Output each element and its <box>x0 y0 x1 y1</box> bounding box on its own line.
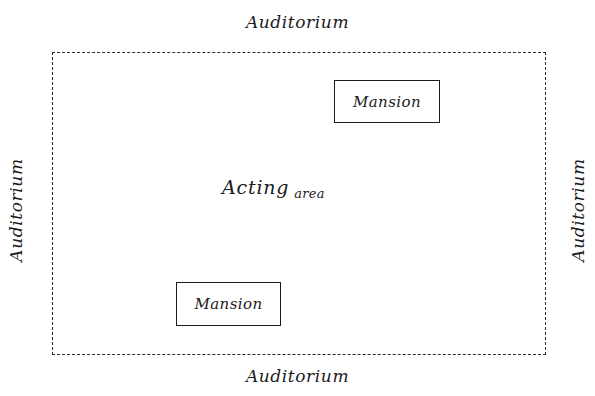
mansion-label-lower-left: Mansion <box>177 295 280 313</box>
mansion-label-upper-right: Mansion <box>335 92 439 110</box>
auditorium-label-top: Auditorium <box>0 12 595 32</box>
auditorium-label-right: Auditorium <box>568 140 588 280</box>
acting-area-boundary <box>52 52 546 355</box>
mansion-box-lower-left: Mansion <box>176 282 281 326</box>
acting-area-caption-secondary: area <box>294 186 325 201</box>
auditorium-label-left: Auditorium <box>6 140 26 280</box>
auditorium-label-bottom: Auditorium <box>0 366 595 386</box>
acting-area-caption-primary: Acting <box>222 176 289 198</box>
mansion-box-upper-right: Mansion <box>334 80 440 123</box>
stage-diagram-canvas: Auditorium Auditorium Auditorium Auditor… <box>0 0 595 396</box>
acting-area-caption: Actingarea <box>222 178 382 197</box>
